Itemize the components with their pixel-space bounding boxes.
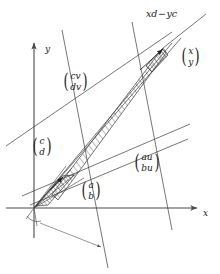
y-axis-label: y: [45, 44, 50, 54]
x-axis-label: x: [203, 208, 208, 218]
vector-a-bottom: b: [88, 191, 94, 201]
paren-right-icon: ): [154, 152, 159, 173]
paren-right-icon: ): [96, 180, 101, 201]
vector-au-top: au: [141, 152, 152, 162]
line-parallel-cd-through-ab: [62, 30, 108, 268]
paren-right-icon: ): [83, 71, 88, 92]
dimension-marks: [26, 208, 101, 247]
vector-cv-bottom: dv: [70, 82, 81, 92]
paren-left-icon: (: [182, 46, 187, 67]
vector-label-au-bu: ( au bu ): [133, 152, 161, 173]
label-xd-minus-yc: xd−yc: [146, 8, 177, 19]
vector-c-top: c: [40, 136, 45, 146]
vector-label-a-b: ( a b ): [80, 180, 102, 201]
vector-a-top: a: [88, 180, 93, 190]
vector-label-xy: ( x y ): [180, 46, 202, 67]
yc-term: yc: [166, 8, 177, 19]
paren-left-icon: (: [82, 180, 87, 201]
paren-right-icon: ): [195, 46, 200, 67]
dimension-arrow: [40, 223, 101, 247]
vector-label-cv-dv: ( cv dv ): [62, 71, 89, 92]
paren-left-icon: (: [64, 71, 69, 92]
vector-c-bottom: d: [39, 147, 45, 157]
paren-left-icon: (: [33, 136, 38, 157]
vector-xy-bottom: y: [188, 57, 193, 67]
paren-right-icon: ): [47, 136, 52, 157]
vector-cv-top: cv: [71, 71, 81, 81]
ray-cd-extension: [163, 14, 206, 48]
xd-term: xd: [146, 8, 157, 19]
vector-geometry-figure: xd−yc y x ( x y ) ( cv dv ) ( c: [0, 0, 220, 274]
hatched-sliver-tip: [146, 48, 168, 72]
vector-label-c-d: ( c d ): [31, 136, 53, 157]
paren-left-icon: (: [135, 152, 140, 173]
vector-xy-top: x: [188, 46, 193, 56]
vector-au-bottom: bu: [141, 163, 153, 173]
